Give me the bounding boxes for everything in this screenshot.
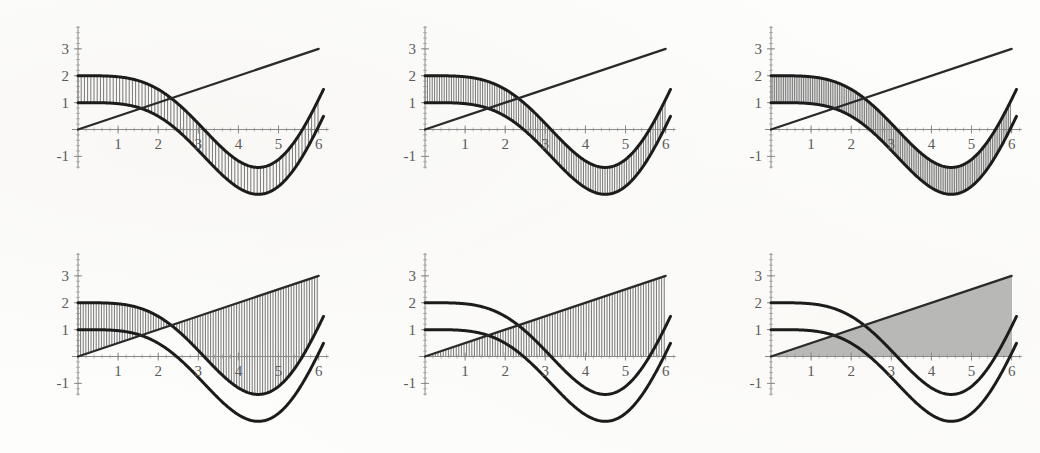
x-tick-label: 6 — [1008, 136, 1016, 152]
x-tick-label: 6 — [662, 362, 670, 378]
x-tick-label: 2 — [154, 136, 162, 152]
x-tick-label: 1 — [461, 362, 469, 378]
x-tick-label: 2 — [154, 362, 162, 378]
plot-svg: 123456-1123 — [347, 227, 694, 453]
x-tick-label: 1 — [114, 136, 122, 152]
x-tick-label: 5 — [275, 136, 282, 152]
y-tick-label: 1 — [408, 321, 416, 337]
x-tick-label: 6 — [662, 136, 670, 152]
y-tick-label: 3 — [408, 41, 416, 57]
x-tick-label: 2 — [501, 136, 509, 152]
plot-panel-5: 123456-1123 — [347, 227, 694, 453]
y-tick-label: -1 — [750, 375, 762, 391]
x-tick-label: 2 — [848, 362, 856, 378]
plot-svg: 123456-1123 — [0, 227, 347, 453]
plot-svg: 123456-1123 — [0, 0, 347, 227]
plot-panel-3: 123456-1123 — [693, 0, 1040, 227]
y-tick-label: 3 — [755, 41, 763, 57]
x-tick-label: 3 — [541, 136, 549, 152]
y-tick-label: 2 — [62, 68, 70, 84]
y-tick-label: 2 — [755, 294, 763, 310]
x-tick-label: 6 — [315, 362, 323, 378]
x-tick-label: 3 — [195, 362, 203, 378]
y-tick-label: 3 — [408, 267, 416, 283]
x-tick-label: 2 — [501, 362, 509, 378]
x-tick-label: 6 — [1008, 362, 1016, 378]
x-tick-label: 3 — [888, 362, 896, 378]
y-tick-label: 2 — [62, 294, 70, 310]
y-tick-label: 1 — [62, 321, 70, 337]
figure-canvas: 123456-1123 123456-1123 123456-1123 1234… — [0, 0, 1040, 453]
x-tick-label: 4 — [928, 136, 936, 152]
y-tick-label: -1 — [403, 148, 416, 164]
x-tick-label: 4 — [235, 136, 243, 152]
x-tick-label: 5 — [621, 362, 629, 378]
plot-svg: 123456-1123 — [693, 227, 1040, 453]
x-tick-label: 3 — [541, 362, 549, 378]
y-tick-label: 1 — [755, 321, 763, 337]
x-tick-label: 5 — [968, 362, 976, 378]
plot-panel-4: 123456-1123 — [0, 227, 347, 453]
x-tick-label: 1 — [808, 136, 816, 152]
x-tick-label: 3 — [888, 136, 896, 152]
panel-grid: 123456-1123 123456-1123 123456-1123 1234… — [0, 0, 1040, 453]
x-tick-label: 3 — [195, 136, 203, 152]
y-tick-label: 3 — [62, 267, 70, 283]
x-tick-label: 4 — [235, 362, 243, 378]
y-tick-label: -1 — [57, 148, 69, 164]
x-tick-label: 5 — [621, 136, 629, 152]
x-tick-label: 5 — [968, 136, 976, 152]
y-tick-label: 2 — [408, 294, 416, 310]
y-tick-label: -1 — [403, 375, 416, 391]
y-tick-label: 3 — [62, 41, 70, 57]
y-tick-label: 2 — [408, 68, 416, 84]
x-tick-label: 4 — [581, 136, 589, 152]
curve-straight_line — [78, 49, 319, 130]
y-tick-label: -1 — [750, 148, 762, 164]
plot-panel-2: 123456-1123 — [347, 0, 694, 227]
y-tick-label: 3 — [755, 267, 763, 283]
x-tick-label: 4 — [581, 362, 589, 378]
x-tick-label: 1 — [461, 136, 469, 152]
y-tick-label: 1 — [62, 95, 70, 111]
x-tick-label: 4 — [928, 362, 936, 378]
x-tick-label: 6 — [315, 136, 323, 152]
x-tick-label: 1 — [114, 362, 122, 378]
x-tick-label: 1 — [808, 362, 816, 378]
curve-straight_line — [425, 275, 666, 356]
y-tick-label: -1 — [57, 375, 69, 391]
x-tick-label: 2 — [848, 136, 856, 152]
plot-panel-6: 123456-1123 — [693, 227, 1040, 453]
y-tick-label: 1 — [755, 95, 763, 111]
plot-svg: 123456-1123 — [693, 0, 1040, 227]
y-tick-label: 2 — [755, 68, 763, 84]
plot-svg: 123456-1123 — [347, 0, 694, 227]
y-tick-label: 1 — [408, 95, 416, 111]
plot-panel-1: 123456-1123 — [0, 0, 347, 227]
x-tick-label: 5 — [275, 362, 282, 378]
